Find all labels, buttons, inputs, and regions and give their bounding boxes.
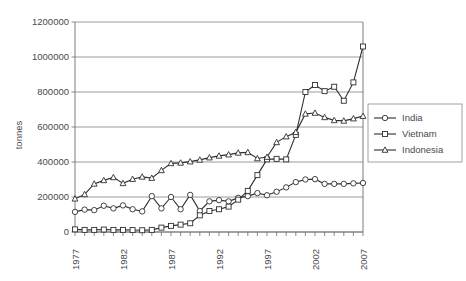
x-axis-tick-labels: 1977198219871992199720022007 <box>70 249 369 270</box>
y-axis-title-text: tonnes <box>13 120 24 149</box>
data-point-vietnam <box>303 90 308 95</box>
data-point-india <box>120 203 125 208</box>
data-point-india <box>332 181 337 186</box>
data-point-vietnam <box>92 227 97 232</box>
x-axis-tick-label: 1987 <box>166 249 177 270</box>
legend-label: Vietnam <box>402 128 437 139</box>
data-point-vietnam <box>341 98 346 103</box>
data-point-indonesia <box>111 174 117 179</box>
data-point-vietnam <box>101 227 106 232</box>
data-point-india <box>207 199 212 204</box>
data-point-vietnam <box>140 228 145 233</box>
data-point-india <box>159 206 164 211</box>
data-point-vietnam <box>111 227 116 232</box>
data-point-indonesia <box>274 139 280 144</box>
data-point-india <box>351 181 356 186</box>
data-point-india <box>360 180 365 185</box>
data-point-india <box>130 207 135 212</box>
data-point-india <box>149 193 154 198</box>
x-axis-tick-label: 1982 <box>118 249 129 270</box>
series-indonesia <box>72 110 366 201</box>
data-point-vietnam <box>197 213 202 218</box>
data-point-vietnam <box>255 173 260 178</box>
data-point-india <box>140 209 145 214</box>
data-point-india <box>303 177 308 182</box>
data-point-india <box>82 207 87 212</box>
data-point-vietnam <box>245 188 250 193</box>
gridlines: 020000040000060000080000010000001200000 <box>32 16 363 237</box>
data-point-india <box>255 190 260 195</box>
data-point-vietnam <box>226 204 231 209</box>
legend-label: Indonesia <box>402 144 444 155</box>
y-axis-title: tonnes <box>13 120 24 149</box>
data-point-vietnam <box>149 227 154 232</box>
data-point-india <box>274 189 279 194</box>
legend-label: India <box>402 112 423 123</box>
y-axis-tick-label: 200000 <box>37 191 69 202</box>
y-axis-tick-label: 1200000 <box>32 16 69 27</box>
data-point-vietnam <box>284 157 289 162</box>
line-chart: 0200000400000600000800000100000012000001… <box>0 0 466 281</box>
data-point-vietnam <box>322 89 327 94</box>
x-axis-tick-label: 1992 <box>214 249 225 270</box>
y-axis-tick-label: 1000000 <box>32 51 69 62</box>
data-point-india <box>216 197 221 202</box>
y-axis-tick-label: 400000 <box>37 156 69 167</box>
data-point-vietnam <box>188 221 193 226</box>
data-point-indonesia <box>159 167 165 172</box>
data-point-vietnam <box>130 228 135 233</box>
x-axis-tick-label: 1977 <box>70 249 81 270</box>
data-point-india <box>322 181 327 186</box>
data-point-vietnam <box>121 227 126 232</box>
data-point-vietnam <box>313 83 318 88</box>
data-point-vietnam <box>361 44 366 49</box>
data-point-india <box>72 209 77 214</box>
data-point-india <box>312 176 317 181</box>
data-point-india <box>226 199 231 204</box>
y-axis-tick-label: 600000 <box>37 121 69 132</box>
series-vietnam <box>73 44 366 233</box>
chart-container: 0200000400000600000800000100000012000001… <box>0 0 466 281</box>
data-point-india <box>293 179 298 184</box>
data-point-india <box>264 193 269 198</box>
data-point-vietnam <box>236 197 241 202</box>
data-point-indonesia <box>293 129 299 134</box>
data-point-indonesia <box>360 113 366 118</box>
legend: IndiaVietnamIndonesia <box>368 104 462 162</box>
data-point-india <box>188 192 193 197</box>
data-point-india <box>111 206 116 211</box>
x-axis-tick-label: 1997 <box>262 249 273 270</box>
data-point-vietnam <box>217 207 222 212</box>
data-point-vietnam <box>73 227 78 232</box>
data-point-vietnam <box>178 222 183 227</box>
data-point-india <box>245 193 250 198</box>
data-point-india <box>168 194 173 199</box>
data-point-vietnam <box>274 156 279 161</box>
data-point-vietnam <box>351 80 356 85</box>
data-point-indonesia <box>139 174 145 179</box>
y-axis-tick-label: 0 <box>64 226 69 237</box>
data-point-india <box>101 203 106 208</box>
x-tickmarks <box>75 232 363 236</box>
data-point-vietnam <box>159 225 164 230</box>
data-point-india <box>92 207 97 212</box>
x-axis-tick-label: 2007 <box>358 249 369 270</box>
data-point-vietnam <box>169 223 174 228</box>
legend-marker-india <box>382 115 387 120</box>
legend-marker-vietnam <box>383 132 388 137</box>
data-point-vietnam <box>207 209 212 214</box>
data-point-india <box>178 207 183 212</box>
x-axis-tick-label: 2002 <box>310 249 321 270</box>
y-axis-tick-label: 800000 <box>37 86 69 97</box>
data-point-vietnam <box>82 227 87 232</box>
data-point-india <box>341 181 346 186</box>
data-point-indonesia <box>312 110 318 115</box>
data-point-india <box>284 185 289 190</box>
data-point-vietnam <box>332 84 337 89</box>
